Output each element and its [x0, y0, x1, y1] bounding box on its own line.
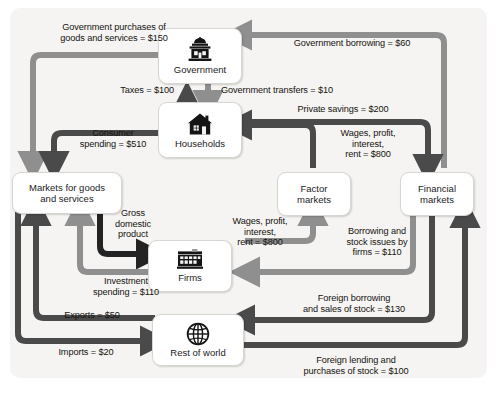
label-imports: Imports = $20	[44, 347, 128, 358]
node-label-factor-markets: Factor markets	[297, 183, 331, 205]
label-gov-purchases: Government purchases of goods and servic…	[30, 22, 198, 43]
factory-icon	[175, 249, 205, 271]
label-wages-to-households: Wages, profit, interest, rent = $800	[322, 128, 414, 160]
label-consumer-spending: Consumer spending = $510	[68, 128, 158, 149]
node-label-markets: Markets for goods and services	[29, 182, 105, 204]
label-foreign-borrowing: Foreign borrowing and sales of stock = $…	[274, 293, 434, 314]
flow-wages-to-households	[240, 125, 313, 168]
globe-icon	[185, 322, 211, 346]
circular-flow-diagram: .fd{fill:none;stroke:#4a4a4a;stroke-widt…	[0, 0, 501, 398]
label-gov-borrowing: Government borrowing = $60	[264, 38, 440, 49]
node-label-government: Government	[174, 64, 226, 75]
node-financial-markets[interactable]: Financial markets	[400, 172, 474, 216]
label-gdp: Gross domestic product	[104, 208, 162, 240]
label-private-savings: Private savings = $200	[268, 104, 418, 115]
node-rest-of-world[interactable]: Rest of world	[152, 314, 244, 366]
node-label-households: Households	[175, 138, 225, 149]
label-investment-spending: Investment spending = $110	[78, 276, 174, 297]
label-wages-from-firms: Wages, profit, interest, rent = $800	[214, 216, 306, 248]
node-label-firms: Firms	[178, 272, 202, 283]
node-factor-markets[interactable]: Factor markets	[277, 172, 351, 216]
node-label-rest-of-world: Rest of world	[170, 347, 225, 358]
label-gov-transfers: Government transfers = $10	[221, 85, 391, 96]
label-exports: Exports = $50	[50, 310, 134, 321]
node-label-financial-markets: Financial markets	[418, 183, 456, 205]
label-foreign-lending: Foreign lending and purchases of stock =…	[276, 355, 436, 376]
node-households[interactable]: Households	[158, 102, 242, 158]
label-firm-borrowing: Borrowing and stock issues by firms = $1…	[330, 226, 424, 258]
house-icon	[186, 112, 214, 137]
label-taxes: Taxes = $100	[96, 85, 174, 96]
